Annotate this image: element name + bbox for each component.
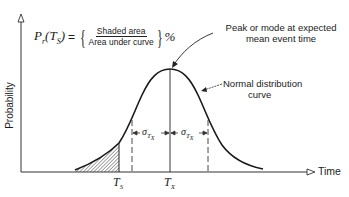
formula-equals: = [68, 30, 75, 44]
x-axis-label: Time [318, 166, 341, 177]
ts-label: TS [113, 175, 123, 191]
sigma-right-label: σTX [181, 126, 194, 141]
y-axis [18, 14, 24, 172]
right-brace: } [157, 27, 163, 47]
peak-annotation-line2: mean event time [216, 33, 346, 44]
formula-lhs: Pr(TS) [34, 28, 65, 46]
fraction-denominator: Area under curve [89, 37, 154, 47]
x-axis-arrow-icon [307, 169, 315, 175]
percent-sign: % [164, 29, 175, 45]
curve-annotation-line2: curve [223, 89, 302, 100]
curve-annotation-line1: Normal distribution [223, 78, 302, 89]
sigma-left-label: σTX [142, 126, 155, 141]
y-axis-arrow-icon [18, 14, 24, 22]
peak-arrow [172, 33, 213, 68]
peak-annotation-line1: Peak or mode at expected [216, 22, 346, 33]
left-brace: { [80, 27, 86, 47]
y-axis-label: Probability [4, 82, 15, 129]
tx-label: TX [164, 175, 175, 191]
fraction-numerator: Shaded area [96, 26, 147, 37]
curve-arrow [201, 84, 222, 92]
curve-annotation: Normal distribution curve [223, 78, 302, 100]
peak-annotation: Peak or mode at expected mean event time [216, 22, 346, 44]
probability-formula: Pr(TS) = { Shaded area Area under curve … [34, 26, 175, 47]
formula-fraction: Shaded area Area under curve [89, 26, 154, 47]
